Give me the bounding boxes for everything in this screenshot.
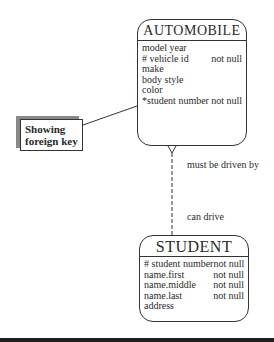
callout-line: foreign key xyxy=(25,135,78,147)
attribute-name: # student number xyxy=(144,259,213,270)
relationship-label-automobile: must be driven by xyxy=(187,159,259,170)
attribute-name: *student number xyxy=(142,96,209,107)
attribute-constraint: not null xyxy=(213,280,244,291)
attribute-list: model year # vehicle idnot null make bod… xyxy=(138,41,246,106)
attribute-row: color xyxy=(142,85,246,96)
entity-title: AUTOMOBILE xyxy=(138,20,246,41)
entity-student: STUDENT # student numbernot null name.fi… xyxy=(139,235,249,322)
attribute-name: model year xyxy=(142,43,187,54)
attribute-name: color xyxy=(142,85,163,96)
attribute-name: name.middle xyxy=(144,280,196,291)
entity-title: STUDENT xyxy=(140,236,248,257)
attribute-constraint: not null xyxy=(213,291,244,302)
attribute-constraint: not null xyxy=(213,259,244,270)
attribute-row: model year xyxy=(142,43,246,54)
attribute-row: name.middlenot null xyxy=(144,280,248,291)
crows-foot-icon xyxy=(168,146,176,153)
attribute-row: make xyxy=(142,64,246,75)
attribute-row: # student numbernot null xyxy=(144,259,248,270)
attribute-name: address xyxy=(144,301,174,312)
bottom-border-bar xyxy=(0,338,274,342)
attribute-row: *student numbernot null xyxy=(142,96,246,107)
entity-automobile: AUTOMOBILE model year # vehicle idnot nu… xyxy=(137,19,247,146)
attribute-row: address xyxy=(144,301,248,312)
callout-line: Showing xyxy=(25,123,78,135)
relationship-label-student: can drive xyxy=(187,211,224,222)
attribute-name: make xyxy=(142,64,164,75)
callout-pointer-line xyxy=(83,106,137,125)
foreign-key-callout: Showing foreign key xyxy=(20,119,83,151)
attribute-list: # student numbernot null name.firstnot n… xyxy=(140,257,248,312)
attribute-constraint: not null xyxy=(211,96,242,107)
attribute-constraint: not null xyxy=(211,54,242,65)
